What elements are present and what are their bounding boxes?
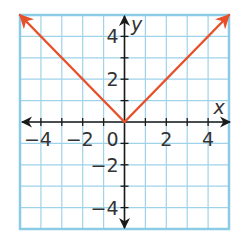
y-tick-label: −2 [90,154,118,176]
y-tick-label: −4 [90,197,118,219]
x-tick-label: 2 [160,128,172,150]
x-tick-label: 4 [202,128,214,150]
y-axis-label: y [130,13,143,35]
y-tick-label: 4 [106,25,118,47]
chart: −4−2024−4−224xy [0,0,241,243]
x-tick-label: −4 [24,128,52,150]
x-tick-label: −2 [66,128,94,150]
y-tick-label: 2 [106,68,118,90]
x-tick-label: 0 [106,128,118,150]
x-axis-label: x [212,96,225,118]
